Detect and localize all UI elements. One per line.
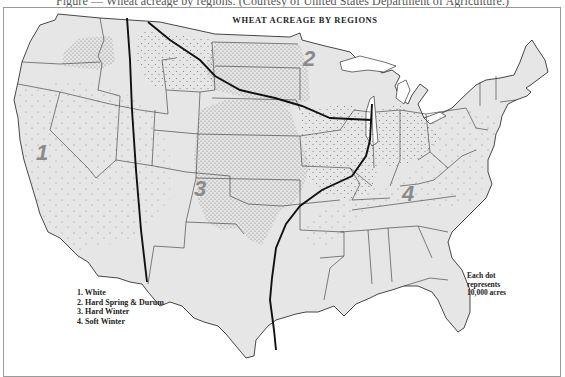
legend-item-hard-spring-durum: 2. Hard Spring & Durum [77, 298, 164, 308]
legend-item-hard-winter: 3. Hard Winter [77, 307, 164, 317]
map-title: WHEAT ACREAGE BY REGIONS [205, 15, 405, 25]
region-1-label: 1 [36, 140, 48, 166]
dot-note-line-3: 10,000 acres [467, 289, 506, 298]
region-4-label: 4 [402, 181, 414, 207]
region-2-label: 2 [303, 46, 315, 72]
region-3-label: 3 [194, 176, 206, 202]
legend-item-white: 1. White [77, 288, 164, 298]
legend-item-soft-winter: 4. Soft Winter [77, 317, 164, 327]
legend: 1. White 2. Hard Spring & Durum 3. Hard … [77, 288, 164, 326]
dot-scale-note: Each dot represents 10,000 acres [467, 272, 506, 298]
